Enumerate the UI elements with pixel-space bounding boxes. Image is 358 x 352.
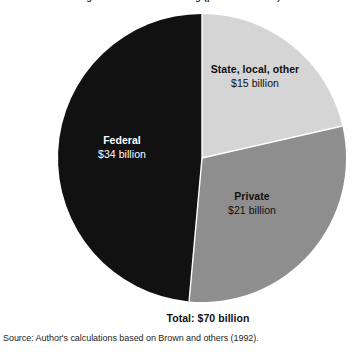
chart-total-caption: Total: $70 billion — [0, 312, 358, 324]
pie-label-private-value: $21 billion — [196, 204, 308, 218]
pie-label-state-local-other-value: $15 billion — [189, 77, 321, 91]
pie-label-federal-name: Federal — [64, 134, 180, 148]
pie-label-federal: Federal $34 billion — [64, 134, 180, 162]
pie-label-federal-value: $34 billion — [64, 148, 180, 162]
pie-label-private-name: Private — [196, 190, 308, 204]
source-note: Source: Author's calculations based on B… — [3, 333, 355, 343]
pie-label-state-local-other: State, local, other $15 billion — [189, 63, 321, 91]
pie-label-state-local-other-name: State, local, other — [189, 63, 321, 77]
pie-label-private: Private $21 billion — [196, 190, 308, 218]
pie-chart: State, local, other $15 billion Federal … — [0, 0, 358, 310]
